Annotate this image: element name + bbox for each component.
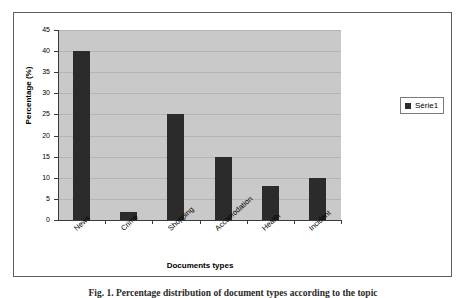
figure-frame: Percentage (%) Documents types 051015202… (13, 12, 452, 277)
gridline (58, 157, 341, 158)
x-tick-mark (152, 221, 153, 224)
x-tick-mark (105, 221, 106, 224)
y-tick-mark (54, 93, 58, 94)
gridline (58, 93, 341, 94)
gridline (58, 30, 341, 31)
x-tick-mark (341, 221, 342, 224)
y-tick-label: 30 (32, 89, 50, 97)
y-tick-mark (54, 157, 58, 158)
y-tick-label: 20 (32, 132, 50, 140)
bar-shopping (167, 114, 184, 220)
x-tick-mark (294, 221, 295, 224)
bar-news (73, 51, 90, 220)
y-tick-label: 15 (32, 153, 50, 161)
plot-area (58, 30, 341, 220)
y-tick-label: 10 (32, 174, 50, 182)
y-tick-mark (54, 51, 58, 52)
y-tick-label: 25 (32, 110, 50, 118)
x-tick-mark (247, 221, 248, 224)
y-tick-label: 35 (32, 68, 50, 76)
chart-canvas: Percentage (%) Documents types 051015202… (14, 13, 451, 276)
y-tick-label: 0 (32, 216, 50, 224)
y-tick-mark (54, 114, 58, 115)
gridline (58, 114, 341, 115)
y-tick-mark (54, 220, 58, 221)
x-axis-title: Documents types (58, 261, 342, 270)
y-tick-mark (54, 178, 58, 179)
figure-caption: Fig. 1. Percentage distribution of docum… (0, 288, 466, 298)
gridline (58, 51, 341, 52)
y-axis-line (58, 30, 59, 221)
gridline (58, 136, 341, 137)
y-tick-label: 5 (32, 195, 50, 203)
gridline (58, 178, 341, 179)
y-tick-mark (54, 72, 58, 73)
y-tick-mark (54, 199, 58, 200)
legend-entry-label: Série1 (415, 101, 438, 110)
chart-legend: Série1 (400, 97, 444, 114)
y-tick-mark (54, 136, 58, 137)
y-tick-label: 45 (32, 26, 50, 34)
x-tick-mark (200, 221, 201, 224)
gridline (58, 72, 341, 73)
y-tick-label: 40 (32, 47, 50, 55)
legend-swatch-icon (405, 103, 411, 109)
gridline (58, 199, 341, 200)
y-tick-mark (54, 30, 58, 31)
